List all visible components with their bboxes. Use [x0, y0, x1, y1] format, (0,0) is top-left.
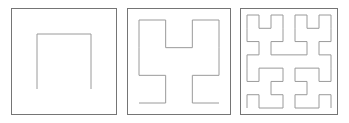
hilbert-path-order-1	[37, 34, 91, 89]
panel-hilbert-order-2	[127, 8, 231, 115]
curve-hilbert-order-3	[240, 8, 338, 115]
hilbert-path-order-2	[139, 20, 219, 103]
hilbert-path-order-3	[247, 15, 331, 108]
curve-hilbert-order-1	[11, 8, 117, 115]
panel-hilbert-order-3	[240, 8, 338, 115]
hilbert-curve-figure	[0, 0, 349, 123]
curve-hilbert-order-2	[127, 8, 231, 115]
panel-hilbert-order-1	[11, 8, 117, 115]
